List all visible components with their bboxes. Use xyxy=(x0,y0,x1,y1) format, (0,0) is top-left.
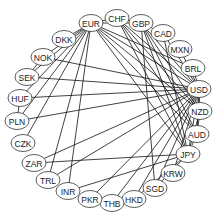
node-brl: BRL xyxy=(181,60,205,77)
node-label: CZK xyxy=(15,139,32,149)
node-label: ZAR xyxy=(26,159,43,169)
node-label: EUR xyxy=(82,19,100,29)
node-huf: HUF xyxy=(8,90,32,107)
node-label: GBP xyxy=(132,19,150,29)
node-trl: TRL xyxy=(36,172,60,189)
edge-jpy-zar xyxy=(34,154,188,163)
node-label: DKK xyxy=(55,35,73,45)
node-label: INR xyxy=(61,187,76,197)
node-inr: INR xyxy=(56,183,80,200)
node-label: JPY xyxy=(180,150,196,160)
node-label: KRW xyxy=(163,169,183,179)
node-nzd: NZD xyxy=(188,103,212,120)
node-label: SGD xyxy=(146,184,164,194)
node-pln: PLN xyxy=(5,113,29,130)
node-zar: ZAR xyxy=(22,155,46,172)
node-sek: SEK xyxy=(15,69,39,86)
node-czk: CZK xyxy=(11,135,35,152)
node-label: USD xyxy=(190,85,208,95)
currency-network-diagram: EURCHFGBPCADMXNBRLUSDNZDAUDJPYKRWSGDHKDT… xyxy=(0,0,224,221)
node-eur: EUR xyxy=(79,15,103,32)
node-label: PKR xyxy=(81,195,98,205)
node-label: CAD xyxy=(154,29,172,39)
node-label: TRL xyxy=(40,176,56,186)
node-cad: CAD xyxy=(151,25,175,42)
node-label: PLN xyxy=(9,117,26,127)
node-label: NOK xyxy=(34,53,53,63)
node-jpy: JPY xyxy=(176,146,200,163)
node-label: MXN xyxy=(171,45,190,55)
node-dkk: DKK xyxy=(52,31,76,48)
edge-usd-zar xyxy=(34,89,199,163)
node-sgd: SGD xyxy=(143,180,167,197)
node-aud: AUD xyxy=(185,126,209,143)
node-label: AUD xyxy=(188,130,206,140)
node-label: HUF xyxy=(11,94,28,104)
node-hkd: HKD xyxy=(122,191,146,208)
node-label: THB xyxy=(104,199,121,209)
edge-usd-hkd xyxy=(134,89,199,199)
node-chf: CHF xyxy=(105,10,129,27)
node-label: CHF xyxy=(108,14,125,24)
node-nok: NOK xyxy=(31,49,55,66)
node-label: BRL xyxy=(185,64,202,74)
node-krw: KRW xyxy=(161,165,185,182)
node-gbp: GBP xyxy=(129,15,153,32)
node-label: NZD xyxy=(191,107,208,117)
node-thb: THB xyxy=(100,195,124,212)
node-label: HKD xyxy=(125,195,143,205)
node-usd: USD xyxy=(187,81,211,98)
node-mxn: MXN xyxy=(168,41,192,58)
node-pkr: PKR xyxy=(78,191,102,208)
node-label: SEK xyxy=(18,73,35,83)
